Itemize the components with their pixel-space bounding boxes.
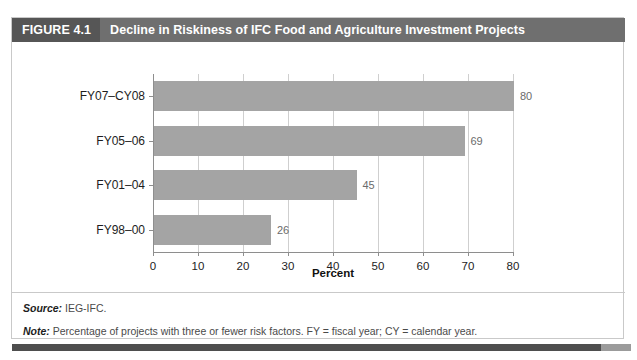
bar-value-label: 80 <box>520 91 532 102</box>
bar-value-label: 69 <box>471 136 483 147</box>
figure-number-label: FIGURE 4.1 <box>12 18 100 42</box>
bar-value-label: 45 <box>363 180 375 191</box>
y-tick-mark <box>149 141 153 142</box>
source-row: Source: IEG-IFC. <box>23 302 613 315</box>
figure-header: FIGURE 4.1 Decline in Riskiness of IFC F… <box>12 18 625 42</box>
figure-title: Decline in Riskiness of IFC Food and Agr… <box>100 23 525 37</box>
chart-plot-region: FY07–CY08FY05–06FY01–04FY98–00 80694526 … <box>12 42 625 292</box>
x-tick-mark <box>198 252 199 256</box>
note-text: Percentage of projects with three or few… <box>50 325 477 337</box>
x-tick-mark <box>288 252 289 256</box>
x-tick-mark <box>153 252 154 256</box>
page-bottom-rule-tail <box>601 344 631 351</box>
bar <box>154 215 271 245</box>
x-tick-mark <box>468 252 469 256</box>
note-label: Note: <box>23 325 50 337</box>
footnotes: Source: IEG-IFC. Note: Percentage of pro… <box>12 293 625 339</box>
bar <box>154 126 465 156</box>
category-label: FY05–06 <box>12 135 145 147</box>
x-tick-mark <box>243 252 244 256</box>
y-tick-mark <box>149 96 153 97</box>
x-tick-mark <box>423 252 424 256</box>
x-tick-mark <box>513 252 514 256</box>
category-label: FY98–00 <box>12 224 145 236</box>
bar <box>154 81 514 111</box>
source-text: IEG-IFC. <box>62 302 106 314</box>
x-axis-title: Percent <box>153 268 513 280</box>
category-label: FY07–CY08 <box>12 90 145 102</box>
page-bottom-rule <box>12 344 601 351</box>
y-tick-mark <box>149 230 153 231</box>
x-tick-mark <box>333 252 334 256</box>
category-label: FY01–04 <box>12 179 145 191</box>
plot-area <box>153 74 513 252</box>
bar-value-label: 26 <box>277 225 289 236</box>
bar <box>154 170 357 200</box>
y-tick-mark <box>149 185 153 186</box>
x-tick-mark <box>378 252 379 256</box>
source-label: Source: <box>23 302 62 314</box>
figure-frame: FIGURE 4.1 Decline in Riskiness of IFC F… <box>11 17 624 339</box>
note-row: Note: Percentage of projects with three … <box>23 325 613 338</box>
